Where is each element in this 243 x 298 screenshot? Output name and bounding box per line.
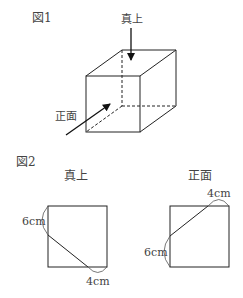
cube: [86, 50, 176, 132]
top-view-bottom-measure: 4cm: [86, 275, 110, 288]
front-view-label: 正面: [188, 169, 212, 183]
diagram-canvas: 図1 真上 正面 図2 真上 6cm 4cm: [0, 0, 243, 298]
top-direction-label: 真上: [121, 12, 143, 26]
figure-2-title: 図2: [16, 155, 36, 169]
figure-1-title: 図1: [32, 11, 52, 25]
figure-2: 図2 真上 6cm 4cm 正面 4cm 6cm: [16, 155, 231, 288]
figure-1: 図1 真上 正面: [32, 11, 176, 135]
top-view-label: 真上: [64, 169, 88, 183]
front-view: 正面 4cm 6cm: [144, 169, 231, 267]
top-view-cut-line: [48, 235, 88, 267]
front-direction-label: 正面: [55, 110, 77, 123]
front-view-cut-line: [170, 206, 208, 236]
front-view-top-measure: 4cm: [207, 187, 231, 200]
top-view-side-measure: 6cm: [22, 215, 46, 228]
top-view: 真上 6cm 4cm: [22, 169, 110, 288]
front-view-side-measure: 6cm: [144, 246, 168, 259]
